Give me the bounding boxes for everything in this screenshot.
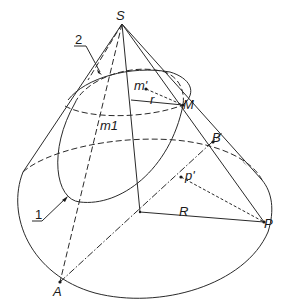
leader-2 — [74, 46, 100, 72]
label-m1: m1 — [100, 118, 118, 133]
leader-2-arrow — [97, 69, 102, 75]
cone-left-edge — [23, 24, 122, 172]
generator-S-A — [60, 24, 122, 282]
label-M: M — [183, 97, 194, 112]
label-S: S — [116, 8, 125, 23]
label-P: P — [264, 216, 273, 231]
label-A: A — [52, 284, 62, 299]
label-R: R — [179, 204, 188, 219]
point-p-prime-dot — [179, 175, 182, 178]
line-p-P — [181, 177, 264, 222]
base-radius-R — [140, 212, 264, 222]
generator-S-P — [122, 24, 264, 222]
center-dot — [139, 211, 141, 213]
label-r: r — [150, 92, 155, 107]
label-p-prime: p' — [184, 168, 195, 183]
base-ellipse-front — [18, 172, 272, 298]
cone-diagram: S 2 m' r M m1 B p' R P 1 A — [0, 0, 284, 307]
label-m-prime: m' — [134, 78, 148, 93]
generator-S-left-hidden — [88, 24, 122, 80]
small-circle-back — [65, 105, 183, 116]
label-B: B — [212, 130, 221, 145]
label-1: 1 — [35, 207, 42, 222]
line-A-B — [60, 133, 222, 282]
section-ellipse-front — [58, 103, 183, 202]
label-2: 2 — [75, 32, 82, 47]
small-radius-r — [131, 100, 183, 105]
